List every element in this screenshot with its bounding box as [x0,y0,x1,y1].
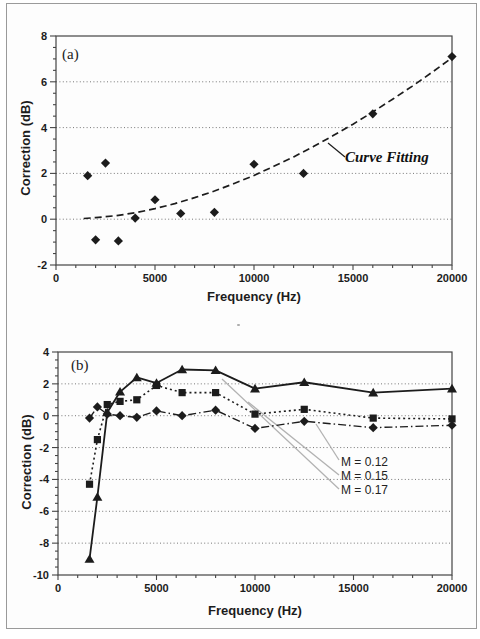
series-marker-square [86,481,93,488]
x-tick-label: 20000 [437,582,468,594]
series-marker-triangle [85,554,95,563]
series-marker-diamond [299,169,308,178]
series-line-M0.15 [90,385,452,484]
y-tick-label: 2 [41,167,47,179]
series-marker-diamond [132,413,141,422]
y-tick-label: -2 [37,259,47,271]
y-tick-label: -4 [39,473,50,485]
panel-b-label: (b) [71,357,89,374]
y-tick-label: 6 [41,76,47,88]
x-tick-label: 5000 [144,582,168,594]
series-marker-diamond [250,424,259,433]
series-marker-diamond [447,52,456,61]
series-marker-diamond [176,209,185,218]
series-marker-triangle [132,373,142,382]
series-marker-square [251,411,258,418]
x-tick-label: 0 [53,272,59,284]
series-marker-diamond [152,406,161,415]
series-marker-diamond [178,411,187,420]
y-tick-label: 8 [41,30,47,42]
annotation-leader-line [328,143,345,157]
series-marker-diamond [83,171,92,180]
tick-labels: 05000100001500020000420-2-4-6-8-10 [33,346,467,594]
series-marker-square [301,406,308,413]
y-tick-label: 2 [43,378,49,390]
y-tick-label: -2 [39,442,49,454]
curve-fitting-annotation: Curve Fitting [345,149,429,166]
annotation-leader-line [316,424,339,460]
annotation-leader-line [222,379,339,489]
x-tick-label: 15000 [338,582,369,594]
series-marker-diamond [93,402,102,411]
y-tick-label: -10 [33,569,49,581]
series-marker-diamond [114,236,123,245]
y-tick-label: -8 [39,537,49,549]
series-marker-diamond [249,160,258,169]
series-marker-diamond [150,195,159,204]
series-marker-square [212,389,219,396]
series-marker-square [116,398,123,405]
x-tick-label: 5000 [143,272,167,284]
series-marker-triangle [299,377,309,386]
y-tick-label: 0 [43,410,49,422]
scan-artifact-dot [237,324,240,326]
series-marker-diamond [210,208,219,217]
panel-a-label: (a) [62,46,79,63]
series-marker-triangle [92,492,102,501]
series-marker-diamond [131,213,140,222]
series-marker-diamond [211,406,220,415]
x-tick-label: 0 [55,582,61,594]
series-line-M0.17 [90,370,452,560]
x-tick-label: 20000 [437,272,468,284]
chart-b-x-axis-title: Frequency (Hz) [208,603,302,618]
legend-label-m012: M = 0.12 [341,455,388,469]
chart-b-y-axis-title: Correction (dB) [19,414,34,509]
series-marker-diamond [300,417,309,426]
x-tick-label: 10000 [240,582,271,594]
legend-label-m015: M = 0.15 [341,469,388,483]
series-marker-diamond [91,235,100,244]
chart-a-y-axis-title: Correction (dB) [18,100,33,195]
series-marker-diamond [85,414,94,423]
series-marker-square [133,396,140,403]
axis-ticks [52,352,452,580]
series-marker-diamond [101,158,110,167]
legend-label-m017: M = 0.17 [341,483,388,497]
series-marker-square [370,415,377,422]
x-tick-label: 10000 [239,272,270,284]
x-tick-label: 15000 [338,272,369,284]
y-tick-label: 4 [41,122,48,134]
series-marker-diamond [369,423,378,432]
y-tick-label: 4 [43,346,50,358]
y-tick-label: 0 [41,213,47,225]
series-marker-square [94,436,101,443]
series-marker-square [179,389,186,396]
y-tick-label: -6 [39,505,49,517]
chart-a-x-axis-title: Frequency (Hz) [207,289,301,304]
series-marker-diamond [115,411,124,420]
figure-container: 0500010000150002000086420-2 050001000015… [0,0,480,639]
series-marker-square [448,415,455,422]
